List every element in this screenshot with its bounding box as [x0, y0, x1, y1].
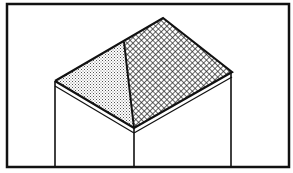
hip-roof-diagram — [0, 0, 293, 173]
